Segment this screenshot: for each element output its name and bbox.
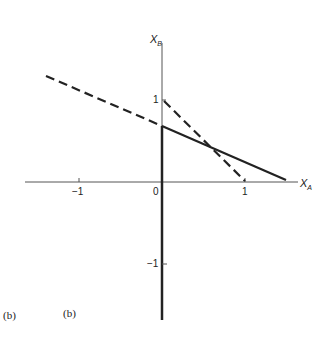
figure-caption-2: (b) [63, 307, 76, 319]
y-axis-label: XB [150, 33, 162, 47]
y-tick-label-neg1: −1 [147, 258, 158, 269]
x-tick-label-neg1: −1 [72, 186, 83, 197]
figure-caption-1: (b) [3, 309, 16, 321]
long-line-dashed-segment [46, 76, 162, 126]
x-tick-label-1: 1 [242, 186, 248, 197]
x-axis-label: XA [300, 177, 312, 191]
long-line-solid-segment [162, 126, 286, 180]
y-tick-label-1: 1 [153, 94, 159, 105]
x-tick-label-0: 0 [153, 186, 159, 197]
diagram-canvas [0, 0, 325, 349]
dashed-line [164, 101, 245, 181]
